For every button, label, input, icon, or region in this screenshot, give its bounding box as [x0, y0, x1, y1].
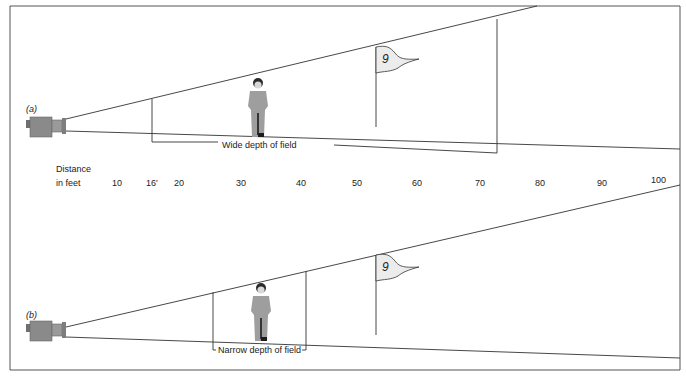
field-of-view-rays	[66, 6, 680, 149]
distance-scale-label-line1: Distance	[56, 164, 91, 174]
flag-number: 9	[382, 260, 389, 274]
distance-tick: 100	[651, 175, 666, 185]
camera-icon	[26, 321, 66, 341]
distance-tick: 16'	[146, 178, 158, 188]
distance-scale: Distance in feet 10 16' 20 30 40 50 60 7…	[56, 164, 666, 188]
distance-tick: 70	[475, 178, 485, 188]
distance-tick: 80	[535, 178, 545, 188]
field-of-view-rays	[66, 185, 680, 358]
depth-of-field-caption: Wide depth of field	[222, 140, 297, 150]
person-icon	[248, 78, 268, 137]
panel-a: (a) Wide depth of field	[26, 6, 680, 153]
distance-tick: 60	[412, 178, 422, 188]
panel-a-tag: (a)	[26, 104, 37, 114]
distance-scale-label-line2: in feet	[56, 178, 81, 188]
panel-b: (b) Narrow depth of field	[26, 185, 680, 358]
depth-of-field-diagram: (a) Wide depth of field	[0, 0, 686, 376]
person-icon	[251, 283, 271, 341]
panel-b-tag: (b)	[26, 310, 37, 320]
distance-tick: 40	[296, 178, 306, 188]
depth-of-field-caption: Narrow depth of field	[218, 345, 301, 355]
distance-tick: 20	[174, 178, 184, 188]
frame-border	[10, 6, 680, 370]
distance-tick: 50	[352, 178, 362, 188]
distance-tick: 30	[236, 178, 246, 188]
camera-icon	[26, 117, 66, 137]
flag-number: 9	[382, 52, 389, 66]
distance-tick: 90	[597, 178, 607, 188]
distance-tick: 10	[112, 178, 122, 188]
